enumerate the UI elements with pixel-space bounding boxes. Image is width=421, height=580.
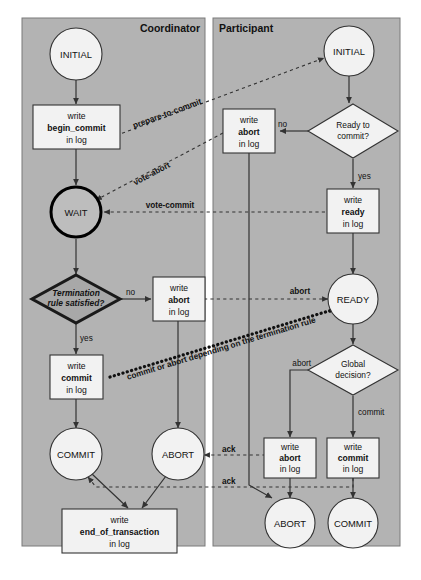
edge-label-global-commit: commit: [358, 408, 385, 417]
edge-label-termination-no: no: [126, 288, 136, 297]
node-p-commit-label: COMMIT: [334, 518, 372, 529]
node-c-termination-line1: Termination: [52, 288, 100, 298]
node-c-abort-log-line1: write: [169, 283, 188, 293]
node-c-begin-commit-line3: in log: [66, 135, 87, 145]
node-p-abort-bottom-line1: write: [280, 442, 299, 452]
edge-label-termination-yes: yes: [80, 334, 93, 343]
node-p-commit-log-line3: in log: [343, 464, 364, 474]
node-p-ready-log-line1: write: [343, 195, 362, 205]
node-p-abort-bottom-line2: abort: [279, 453, 301, 463]
edge-label-ready-yes: yes: [358, 172, 371, 181]
node-c-end-of-transaction[interactable]: write end_of_transaction in log: [62, 509, 177, 553]
node-c-abort-log[interactable]: write abort in log: [153, 277, 205, 321]
node-p-abort-log-top[interactable]: write abort in log: [223, 109, 275, 153]
node-c-wait-label: WAIT: [64, 207, 87, 218]
node-p-abort-top-line2: abort: [238, 127, 260, 137]
node-c-wait[interactable]: WAIT: [51, 187, 101, 237]
node-c-begin-commit[interactable]: write begin_commit in log: [33, 105, 120, 149]
node-p-commit-log-line2: commit: [338, 453, 369, 463]
msg-label-ack-2: ack: [222, 477, 236, 486]
node-p-abort[interactable]: ABORT: [265, 498, 315, 548]
node-p-initial-label: INITIAL: [333, 46, 365, 57]
panel-label-coordinator: Coordinator: [140, 22, 200, 34]
node-c-abort-log-line3: in log: [169, 307, 190, 317]
node-c-begin-commit-line1: write: [66, 111, 85, 121]
node-c-abort-log-line2: abort: [168, 295, 190, 305]
node-c-eot-line2: end_of_transaction: [80, 527, 159, 537]
node-p-ready-q-line2: commit?: [337, 131, 369, 141]
node-p-ready-log-line3: in log: [343, 219, 364, 229]
node-p-ready-log[interactable]: write ready in log: [327, 189, 379, 233]
node-c-begin-commit-line2: begin_commit: [47, 123, 105, 133]
panel-label-participant: Participant: [219, 22, 274, 34]
node-p-ready[interactable]: READY: [328, 274, 378, 324]
node-p-ready-q-line1: Ready to: [336, 120, 370, 130]
node-c-commit[interactable]: COMMIT: [50, 428, 102, 480]
node-c-initial[interactable]: INITIAL: [50, 28, 102, 80]
node-c-initial-label: INITIAL: [60, 49, 92, 60]
node-p-global-q-line1: Global: [341, 359, 365, 369]
node-c-abort[interactable]: ABORT: [152, 428, 204, 480]
node-c-commit-label: COMMIT: [57, 449, 95, 460]
node-c-commit-log-line2: commit: [61, 373, 92, 383]
node-p-abort-top-line3: in log: [239, 139, 260, 149]
node-p-global-q-line2: decision?: [335, 370, 371, 380]
node-p-commit[interactable]: COMMIT: [328, 498, 378, 548]
node-c-termination-line2: rule satisfied?: [48, 298, 105, 308]
node-p-abort-label: ABORT: [274, 518, 306, 529]
node-p-abort-bottom-line3: in log: [280, 464, 301, 474]
edge-label-global-abort: abort: [292, 359, 311, 368]
node-p-ready-log-line2: ready: [342, 207, 365, 217]
msg-label-abort: abort: [290, 287, 311, 296]
node-c-eot-line3: in log: [109, 539, 130, 549]
msg-label-vote-commit: vote-commit: [146, 201, 195, 210]
node-c-commit-log-line1: write: [66, 361, 85, 371]
node-c-commit-log-line3: in log: [66, 385, 87, 395]
node-p-ready-label: READY: [337, 294, 370, 305]
node-c-abort-label: ABORT: [162, 449, 194, 460]
two-phase-commit-diagram: Coordinator Participant no yes no yes ab…: [0, 0, 421, 580]
msg-label-ack-1: ack: [222, 445, 236, 454]
node-p-commit-log-line1: write: [343, 442, 362, 452]
node-p-commit-log[interactable]: write commit in log: [327, 438, 379, 478]
node-p-initial[interactable]: INITIAL: [324, 26, 374, 76]
node-p-abort-top-line1: write: [239, 115, 258, 125]
node-p-abort-log-bottom[interactable]: write abort in log: [264, 438, 316, 478]
node-c-eot-line1: write: [109, 515, 128, 525]
edge-label-ready-no: no: [278, 120, 288, 129]
node-c-commit-log[interactable]: write commit in log: [50, 355, 103, 399]
